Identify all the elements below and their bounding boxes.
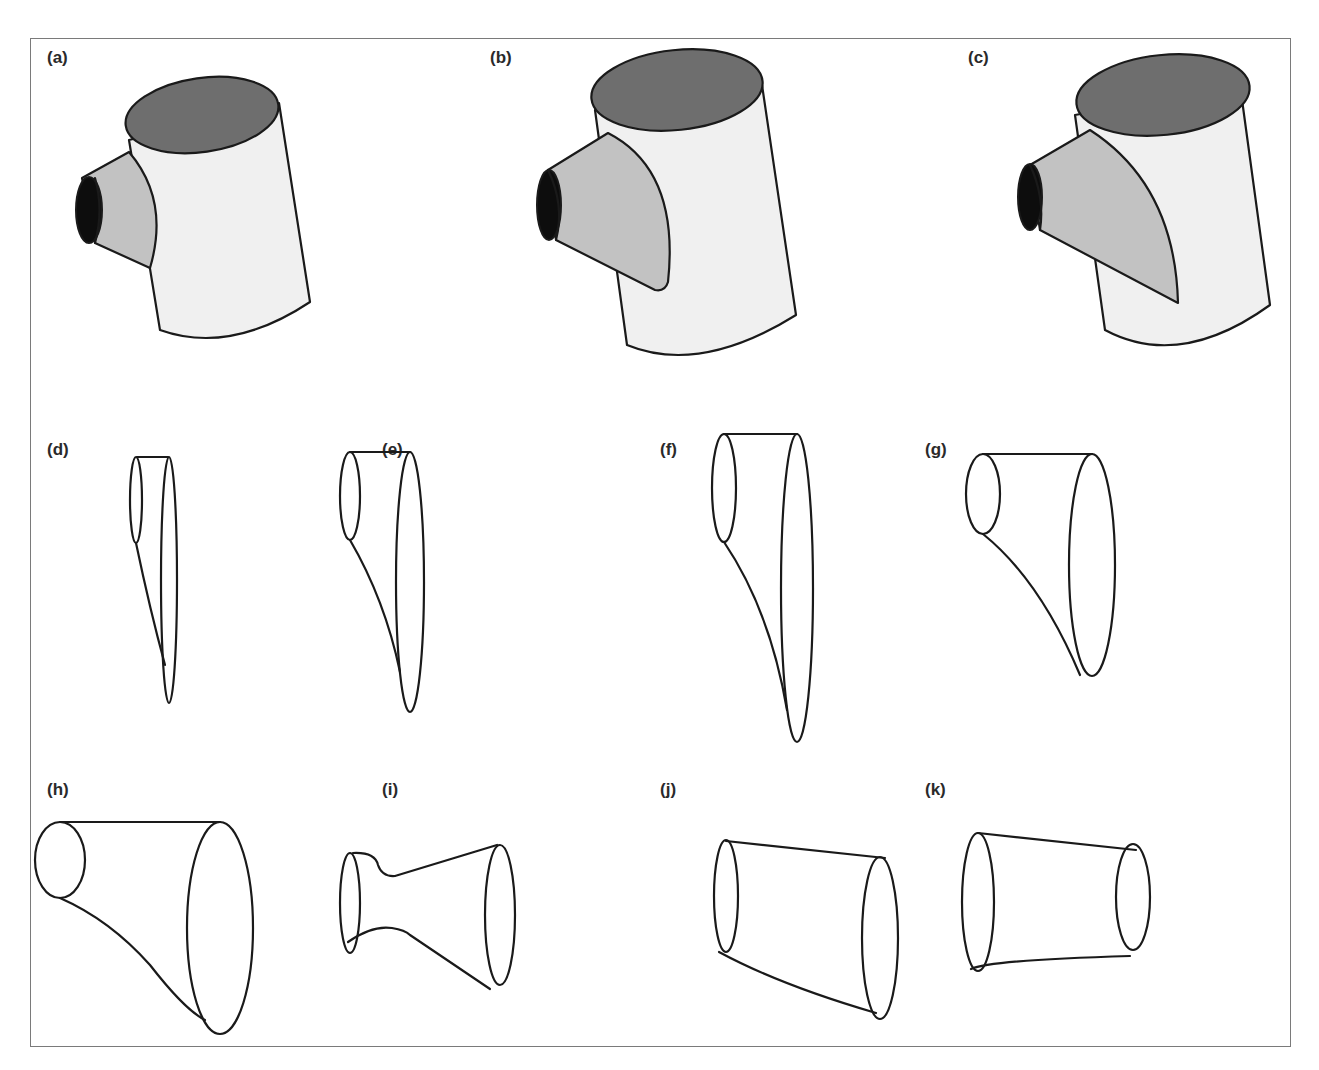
tapered-tube-j (714, 840, 898, 1019)
tee-shape-a (76, 68, 310, 338)
transition-wireframe-d (130, 457, 177, 703)
figure-canvas (0, 0, 1319, 1070)
tapered-tube-k (962, 833, 1150, 971)
tee-shape-c (1018, 46, 1270, 345)
transition-wireframe-f (712, 434, 813, 742)
transition-wireframe-g (966, 454, 1115, 676)
transition-wireframe-i (340, 845, 515, 989)
transition-wireframe-h (35, 822, 253, 1034)
transition-wireframe-e (340, 452, 424, 712)
tee-shape-b (537, 41, 796, 355)
